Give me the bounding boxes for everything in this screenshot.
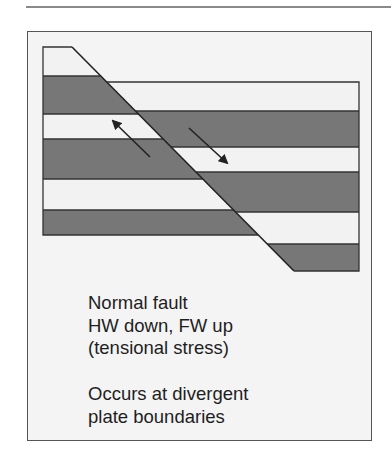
fw-layer-5 <box>43 179 234 210</box>
fault-occurrence: Occurs at divergent plate boundaries <box>88 383 248 428</box>
hw-layer-2 <box>135 111 359 147</box>
hw-layer-3 <box>171 147 359 172</box>
hw-layer-5 <box>236 212 360 244</box>
caption-boundaries: plate boundaries <box>88 406 248 429</box>
fw-layer-1 <box>43 47 101 76</box>
caption-motion: HW down, FW up <box>88 315 233 338</box>
caption-stress: (tensional stress) <box>88 337 233 360</box>
caption-occurs: Occurs at divergent <box>88 383 248 406</box>
fw-layer-6 <box>43 210 258 235</box>
fault-description: Normal fault HW down, FW up (tensional s… <box>88 292 233 360</box>
caption-title: Normal fault <box>88 292 233 315</box>
hw-layer-1 <box>107 82 359 111</box>
